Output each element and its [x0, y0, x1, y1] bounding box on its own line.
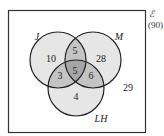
venn-diagram: J M LH ℰ (90) 10 28 5 5 3 6 4 29: [0, 0, 164, 136]
universe-symbol: ℰ: [149, 9, 156, 19]
region-j-lh-only: 3: [58, 70, 63, 81]
region-j-m-only: 5: [73, 45, 78, 56]
region-j-only: 10: [46, 53, 56, 64]
region-lh-only: 4: [74, 91, 79, 102]
region-m-lh-only: 6: [89, 70, 94, 81]
region-outside: 29: [123, 82, 133, 93]
set-j-label: J: [35, 31, 40, 42]
universe-total: (90): [148, 20, 163, 30]
set-lh-label: LH: [94, 113, 109, 124]
region-m-only: 28: [96, 53, 106, 64]
set-m-label: M: [114, 31, 124, 42]
region-j-m-lh: 5: [73, 65, 78, 76]
